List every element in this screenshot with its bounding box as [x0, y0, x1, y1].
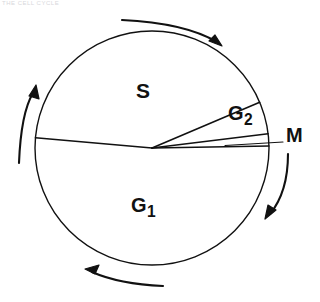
phase-label-g2-subscript: 2	[244, 111, 253, 128]
phase-label-g1-text: G	[131, 194, 147, 216]
phase-label-s-text: S	[136, 79, 150, 102]
phase-label-s: S	[136, 80, 150, 101]
arrow-bottom-head-icon	[85, 265, 99, 274]
arrow-top-head-icon	[209, 35, 222, 46]
arrow-left-shaft	[19, 93, 33, 163]
cell-cycle-figure: THE CELL CYCLE S G2 M G1	[0, 0, 320, 302]
phase-label-g2-text: G	[228, 102, 244, 124]
phase-label-g1: G1	[131, 195, 156, 219]
phase-label-g1-subscript: 1	[147, 203, 156, 220]
arrow-bottom-shaft	[92, 272, 163, 286]
phase-label-m: M	[286, 125, 303, 145]
phase-label-m-text: M	[286, 124, 303, 146]
arrow-right-shaft	[270, 154, 288, 214]
cell-cycle-diagram-svg	[0, 0, 320, 302]
arrow-left-head-icon	[29, 85, 39, 99]
phase-label-g2: G2	[228, 103, 253, 127]
